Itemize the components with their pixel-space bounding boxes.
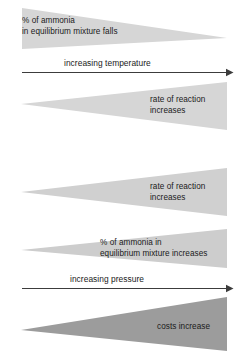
temperature-axis-arrowhead <box>226 69 234 77</box>
trend-diagram: % of ammonia in equilibrium mixture fall… <box>0 0 238 359</box>
wedge-label-line: rate of reaction <box>150 182 205 193</box>
wedge-label-ammonia-falls: % of ammonia in equilibrium mixture fall… <box>22 16 118 37</box>
wedge-label-ammonia-increases: % of ammonia in equilibrium mixture incr… <box>100 238 207 259</box>
wedge-label-line: increases <box>150 106 205 117</box>
diagram-canvas <box>0 0 238 359</box>
pressure-axis <box>22 285 234 293</box>
wedge-label-line: in equilibrium mixture falls <box>22 27 118 38</box>
temperature-axis <box>22 69 234 77</box>
axis-caption-increasing-pressure: increasing pressure <box>70 274 144 285</box>
wedge-label-line: % of ammonia in <box>100 238 207 249</box>
wedge-label-line: rate of reaction <box>150 95 205 106</box>
wedge-label-line: % of ammonia <box>22 16 118 27</box>
pressure-axis-arrowhead <box>226 285 234 293</box>
wedge-label-rate-increases-pressure: rate of reaction increases <box>150 182 205 203</box>
wedge-label-rate-increases-temperature: rate of reaction increases <box>150 95 205 116</box>
wedge-label-line: increases <box>150 193 205 204</box>
wedge-label-line: costs increase <box>157 322 210 333</box>
axis-caption-increasing-temperature: increasing temperature <box>64 58 151 69</box>
wedge-label-costs-increase: costs increase <box>157 322 210 333</box>
wedge-label-line: equilibrium mixture increases <box>100 249 207 260</box>
